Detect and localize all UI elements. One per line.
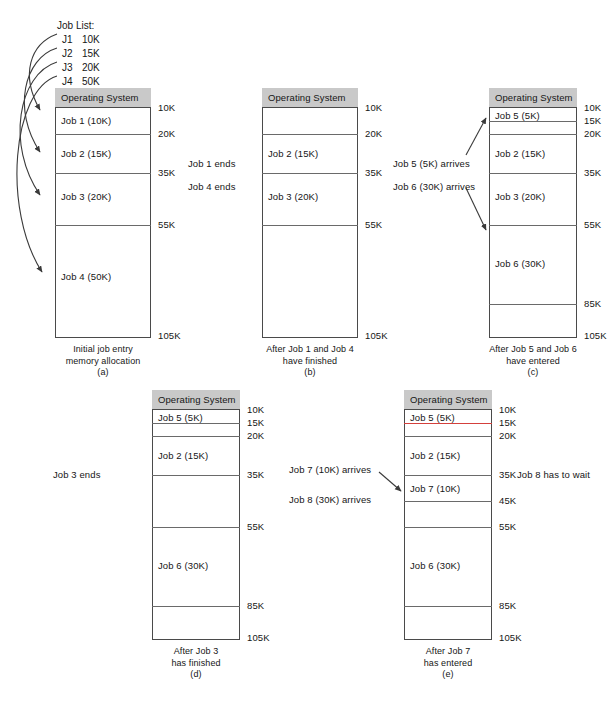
note-job4-ends: Job 4 ends [188, 181, 235, 192]
arrow-job7-arrives [379, 472, 401, 491]
memory-address-marker: 20K [365, 128, 382, 139]
memory-divider [404, 606, 492, 607]
memory-address-marker: 105K [584, 330, 607, 341]
memory-divider [489, 173, 577, 174]
memory-divider [262, 134, 358, 135]
job-list-item: J320K [62, 62, 100, 73]
memory-address-marker: 105K [247, 632, 270, 643]
memory-block-label: Job 2 (15K) [61, 148, 111, 159]
job-list-item: J215K [62, 48, 100, 59]
memory-block-label: Job 4 (50K) [61, 271, 111, 282]
memory-block-label: Job 3 (20K) [61, 191, 111, 202]
memory-address-marker: 85K [499, 600, 516, 611]
arrow-j1-to-job1 [29, 34, 57, 110]
memory-divider [262, 225, 358, 226]
memory-address-marker: 55K [365, 219, 382, 230]
memory-address-marker: 20K [584, 128, 601, 139]
memory-block-label: Job 5 (5K) [495, 110, 540, 121]
note-job5-arrives: Job 5 (5K) arrives [393, 158, 470, 169]
arrow-job6-arrives [466, 188, 486, 230]
memory-divider [55, 134, 151, 135]
memory-address-marker: 15K [499, 417, 516, 428]
arrow-j3-to-job3 [20, 62, 57, 195]
job-list-item-size: 20K [82, 62, 100, 73]
memory-box-b [262, 88, 358, 338]
memory-address-marker: 35K [158, 167, 175, 178]
memory-divider [489, 225, 577, 226]
memory-divider [55, 225, 151, 226]
job-list-item: J110K [62, 34, 100, 45]
memory-block-label: Job 5 (5K) [410, 412, 455, 423]
memory-address-marker: 55K [247, 521, 264, 532]
memory-divider [404, 475, 492, 476]
job-list-item-name: J1 [62, 34, 82, 45]
note-job8-waits: Job 8 has to wait [517, 469, 590, 480]
memory-address-marker: 15K [584, 115, 601, 126]
memory-address-marker: 20K [499, 430, 516, 441]
note-job3-ends: Job 3 ends [53, 469, 100, 480]
memory-block-label: Job 6 (30K) [158, 560, 208, 571]
memory-address-marker: 10K [247, 404, 264, 415]
memory-block-label: Job 1 (10K) [61, 115, 111, 126]
note-job1-ends: Job 1 ends [188, 158, 235, 169]
memory-divider [152, 475, 240, 476]
memory-divider [404, 436, 492, 437]
memory-divider [404, 527, 492, 528]
memory-address-marker: 45K [499, 495, 516, 506]
memory-address-marker: 10K [365, 102, 382, 113]
memory-block-label: Job 3 (20K) [495, 191, 545, 202]
column-caption-a: Initial job entry memory allocation (a) [43, 344, 163, 379]
column-caption-c: After Job 5 and Job 6 have entered (c) [473, 344, 593, 379]
memory-divider [489, 121, 577, 122]
job-list-item-name: J3 [62, 62, 82, 73]
memory-address-marker: 20K [158, 128, 175, 139]
memory-address-marker: 35K [499, 469, 516, 480]
memory-block-label: Job 6 (30K) [495, 258, 545, 269]
memory-divider [152, 423, 240, 424]
memory-divider [152, 436, 240, 437]
memory-address-marker: 15K [247, 417, 264, 428]
memory-address-marker: 85K [584, 298, 601, 309]
memory-address-marker: 35K [247, 469, 264, 480]
arrow-j2-to-job2 [24, 48, 57, 152]
memory-address-marker: 85K [247, 600, 264, 611]
memory-block-label: Job 5 (5K) [158, 412, 203, 423]
note-job8-arrives: Job 8 (30K) arrives [289, 494, 371, 505]
memory-block-label: Job 6 (30K) [410, 560, 460, 571]
arrow-job5-arrives [466, 118, 486, 155]
memory-allocation-diagram: Job List: J110K J215K J320K J450K Operat… [0, 0, 616, 707]
memory-address-marker: 20K [247, 430, 264, 441]
column-caption-b: After Job 1 and Job 4 have finished (b) [250, 344, 370, 379]
memory-address-marker: 55K [499, 521, 516, 532]
job-list-title: Job List: [57, 20, 94, 31]
memory-box-d [152, 390, 240, 640]
note-job6-arrives: Job 6 (30K) arrives [393, 181, 475, 192]
os-block-e: Operating System [404, 390, 492, 410]
memory-divider [489, 134, 577, 135]
memory-block-label: Job 7 (10K) [410, 483, 460, 494]
memory-block-label: Job 2 (15K) [268, 148, 318, 159]
memory-address-marker: 105K [158, 330, 181, 341]
memory-divider [152, 527, 240, 528]
note-job7-arrives: Job 7 (10K) arrives [289, 464, 371, 475]
job-list-item-name: J2 [62, 48, 82, 59]
memory-divider [262, 173, 358, 174]
job-list-item-size: 15K [82, 48, 100, 59]
memory-divider [489, 304, 577, 305]
memory-divider [152, 606, 240, 607]
memory-address-marker: 105K [499, 632, 522, 643]
job-list-item: J450K [62, 76, 100, 87]
os-block-d: Operating System [152, 390, 240, 410]
memory-address-marker: 55K [158, 219, 175, 230]
memory-address-marker: 55K [584, 219, 601, 230]
column-caption-d: After Job 3 has finished (d) [136, 646, 256, 681]
os-block-b: Operating System [262, 88, 358, 108]
memory-block-label: Job 2 (15K) [410, 450, 460, 461]
memory-address-marker: 10K [158, 102, 175, 113]
job-list-item-size: 10K [82, 34, 100, 45]
memory-box-c [489, 88, 577, 338]
memory-box-e [404, 390, 492, 640]
os-block-c: Operating System [489, 88, 577, 108]
job-list-item-size: 50K [82, 76, 100, 87]
memory-address-marker: 10K [584, 102, 601, 113]
